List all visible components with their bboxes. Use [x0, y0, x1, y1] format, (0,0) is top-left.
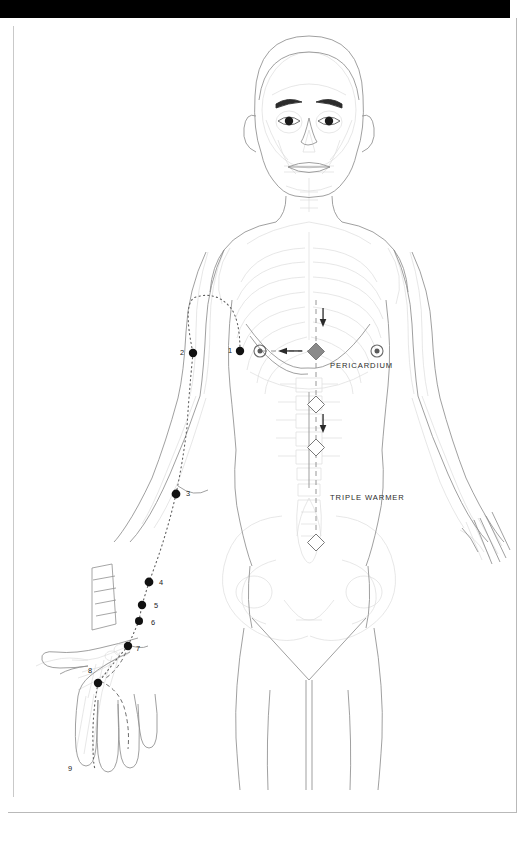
acupoint-label-7: 7: [136, 644, 140, 653]
pericardium-meridian-path: [93, 295, 240, 769]
acupoint-dot-6: [135, 617, 143, 625]
skeleton-overlay: [36, 52, 502, 754]
acupoint-dot-4: [145, 578, 154, 587]
acupoint-label-3: 3: [186, 489, 190, 498]
page-root: PERICARDIUM TRIPLE WARMER 1 2 3 4 5 6 7 …: [0, 0, 527, 857]
acupoint-label-4: 4: [159, 578, 163, 587]
acupoint-dot-8: [94, 679, 102, 687]
meridian-branch-ring-finger: [100, 646, 129, 749]
acupoint-dot-2: [189, 349, 197, 357]
triple-warmer-lower-diamond-icon: [308, 534, 325, 551]
acupoint-dot-7: [124, 642, 132, 650]
acupoint-label-2: 2: [180, 348, 184, 357]
acupoint-dot-5: [138, 601, 146, 609]
internal-organ-axis: [262, 300, 316, 550]
organ-label-triple-warmer: TRIPLE WARMER: [330, 493, 405, 502]
body-outline: [42, 36, 510, 790]
acupoint-label-6: 6: [151, 618, 155, 627]
acupoint-label-8: 8: [88, 666, 92, 675]
cun-ruler: [92, 564, 117, 630]
arrow-to-point-1-icon: [278, 348, 302, 354]
pericardium-diamond-icon: [308, 343, 325, 360]
organ-label-pericardium: PERICARDIUM: [330, 361, 393, 370]
acupoint-dot-3: [172, 490, 181, 499]
acupoint-dot-group: [94, 347, 244, 687]
acupoint-label-5: 5: [154, 601, 158, 610]
acupoint-dot-1: [236, 347, 244, 355]
nipple-right-icon: [371, 345, 383, 357]
arrow-down-lower-icon: [320, 414, 327, 433]
anatomical-figure: [0, 0, 527, 857]
acupoint-label-9: 9: [68, 764, 72, 773]
acupoint-label-1: 1: [228, 346, 232, 355]
